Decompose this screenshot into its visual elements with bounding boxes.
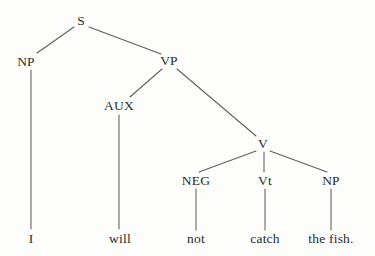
- tree-node-np2: NP: [322, 174, 340, 188]
- tree-leaf-w3: not: [187, 232, 205, 246]
- tree-node-vt: Vt: [258, 174, 272, 188]
- tree-node-neg: NEG: [182, 174, 210, 188]
- tree-edges-layer: [0, 0, 375, 256]
- tree-edge-V-to-NP2: [270, 151, 327, 172]
- tree-edge-VP-to-AUX: [130, 69, 162, 97]
- tree-node-s: S: [77, 14, 85, 28]
- tree-edge-V-to-NEG: [199, 151, 256, 172]
- tree-node-v: V: [258, 137, 268, 151]
- tree-node-vp: VP: [160, 54, 178, 68]
- tree-leaf-w5: the fish.: [308, 232, 353, 246]
- tree-leaf-w2: will: [109, 232, 131, 246]
- tree-edge-S-to-NP1: [37, 27, 74, 53]
- tree-node-np1: NP: [17, 55, 35, 69]
- tree-edge-S-to-VP: [89, 27, 161, 54]
- tree-node-aux: AUX: [104, 99, 134, 113]
- tree-edge-VP-to-V: [177, 69, 256, 136]
- tree-leaf-w1: I: [29, 232, 34, 246]
- tree-leaf-w4: catch: [250, 232, 279, 246]
- syntax-tree-diagram: SNPVPAUXVNEGVtNPIwillnotcatchthe fish.: [0, 0, 375, 256]
